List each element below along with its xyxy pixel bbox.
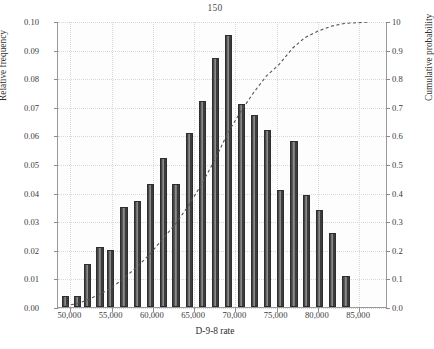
x-axis-title: D-9-8 rate xyxy=(0,326,430,336)
y-axis-left-tick-mark xyxy=(54,279,58,280)
x-axis-tick-label: 70,000 xyxy=(223,310,247,320)
y-axis-left-tick-label: 0.01 xyxy=(0,274,39,284)
y-axis-left-tick-mark xyxy=(54,51,58,52)
y-axis-left-tick-mark xyxy=(54,194,58,195)
x-axis-tick-label: 80,000 xyxy=(305,310,329,320)
y-axis-right-tick-label: 0.2 xyxy=(392,246,426,256)
y-axis-left-tick-label: 0.02 xyxy=(0,246,39,256)
y-axis-left-tick-label: 0.03 xyxy=(0,217,39,227)
y-axis-right-tick-mark xyxy=(386,22,390,23)
x-axis-tick-label: 60,000 xyxy=(140,310,164,320)
x-axis-tick-label: 85,000 xyxy=(346,310,370,320)
x-axis-tick-label: 50,000 xyxy=(58,310,82,320)
y-axis-left-tick-mark xyxy=(54,136,58,137)
gridline-horizontal xyxy=(58,308,386,309)
y-axis-left-tick-label: 0.05 xyxy=(0,160,39,170)
x-axis-tick-label: 75,000 xyxy=(264,310,288,320)
y-axis-right-tick-mark xyxy=(386,165,390,166)
y-axis-right-tick-label: 0.6 xyxy=(392,131,426,141)
y-axis-left-tick-label: 0.10 xyxy=(0,17,39,27)
y-axis-left-tick-label: 0.00 xyxy=(0,303,39,313)
y-axis-right-tick-mark xyxy=(386,51,390,52)
y-axis-right-tick-mark xyxy=(386,136,390,137)
y-axis-left-tick-mark xyxy=(54,308,58,309)
y-axis-left-tick-label: 0.07 xyxy=(0,103,39,113)
y-axis-left-title: Relative frequency xyxy=(0,30,8,101)
y-axis-left-tick-mark xyxy=(54,108,58,109)
y-axis-right-tick-label: 0.1 xyxy=(392,274,426,284)
y-axis-right-tick-label: 0.0 xyxy=(392,303,426,313)
y-axis-right-tick-label: 0.4 xyxy=(392,189,426,199)
y-axis-right-tick-label: 10 xyxy=(392,17,426,27)
y-axis-left-tick-mark xyxy=(54,222,58,223)
y-axis-right-tick-mark xyxy=(386,194,390,195)
y-axis-right-tick-label: 0.5 xyxy=(392,160,426,170)
y-axis-left-tick-mark xyxy=(54,251,58,252)
y-axis-right-tick-mark xyxy=(386,222,390,223)
y-axis-left-tick-label: 0.06 xyxy=(0,131,39,141)
y-axis-right-tick-mark xyxy=(386,279,390,280)
y-axis-right-tick-mark xyxy=(386,308,390,309)
y-axis-left-tick-label: 0.04 xyxy=(0,189,39,199)
y-axis-right-tick-mark xyxy=(386,79,390,80)
plot-area xyxy=(57,22,387,308)
y-axis-right-tick-label: 0.8 xyxy=(392,74,426,84)
y-axis-right-title: Cumulative probability xyxy=(424,14,434,101)
y-axis-left-tick-mark xyxy=(54,165,58,166)
chart-title: 150 xyxy=(0,3,430,13)
y-axis-left-tick-mark xyxy=(54,22,58,23)
x-axis-tick-label: 55,000 xyxy=(99,310,123,320)
y-axis-right-tick-mark xyxy=(386,251,390,252)
y-axis-left-tick-mark xyxy=(54,79,58,80)
y-axis-right-tick-mark xyxy=(386,108,390,109)
y-axis-right-tick-label: 0.7 xyxy=(392,103,426,113)
cumulative-curve-line xyxy=(65,22,369,306)
cumulative-probability-curve xyxy=(58,22,386,307)
y-axis-right-tick-label: 0.3 xyxy=(392,217,426,227)
x-axis-tick-label: 65,000 xyxy=(181,310,205,320)
y-axis-right-tick-label: 0.9 xyxy=(392,46,426,56)
